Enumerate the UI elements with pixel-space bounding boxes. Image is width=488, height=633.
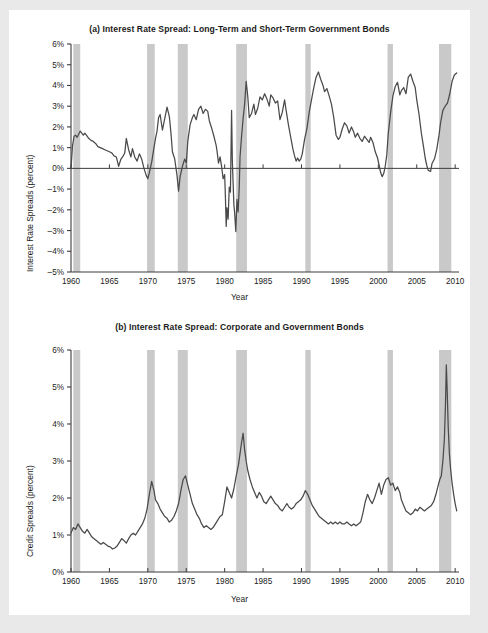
y-tick-label: 1% — [52, 531, 64, 540]
panel-a-svg: 6%5%4%3%2%1%0%–1%–2%–3%–4%–5%19601965197… — [9, 24, 470, 314]
y-tick-label: –5% — [48, 268, 64, 277]
recession-band — [236, 44, 247, 272]
recession-band — [236, 350, 247, 572]
x-tick-label: 1980 — [216, 577, 235, 586]
x-tick-label: 1975 — [177, 577, 196, 586]
x-tick-label: 1990 — [292, 277, 311, 286]
x-tick-label: 2000 — [369, 577, 388, 586]
y-tick-label: 3% — [52, 457, 64, 466]
x-tick-label: 2005 — [408, 277, 427, 286]
y-tick-label: 1% — [52, 144, 64, 153]
x-tick-label: 1970 — [139, 277, 158, 286]
x-tick-label: 1985 — [254, 577, 273, 586]
y-tick-label: –3% — [48, 227, 64, 236]
x-tick-label: 1990 — [292, 577, 311, 586]
x-tick-label: 1970 — [139, 577, 158, 586]
y-tick-label: 4% — [52, 81, 64, 90]
y-tick-label: 5% — [52, 383, 64, 392]
panel-a-plot-area: 6%5%4%3%2%1%0%–1%–2%–3%–4%–5%19601965197… — [9, 24, 470, 314]
x-tick-label: 1960 — [62, 277, 81, 286]
x-tick-label: 2000 — [369, 277, 388, 286]
recession-band — [305, 350, 310, 572]
data-series-line — [71, 365, 457, 549]
chart-panel-b: (b) Interest Rate Spread: Corporate and … — [9, 322, 470, 612]
data-series-line — [71, 72, 457, 232]
figure-page: (a) Interest Rate Spread: Long-Term and … — [9, 10, 470, 615]
x-tick-label: 1995 — [331, 277, 350, 286]
x-tick-label: 1965 — [100, 577, 119, 586]
y-tick-label: –4% — [48, 247, 64, 256]
y-tick-label: 5% — [52, 61, 64, 70]
y-tick-label: 2% — [52, 123, 64, 132]
y-tick-label: 0% — [52, 164, 64, 173]
y-tick-label: 6% — [52, 346, 64, 355]
x-tick-label: 1995 — [331, 577, 350, 586]
y-tick-label: 4% — [52, 420, 64, 429]
y-tick-label: 3% — [52, 102, 64, 111]
x-tick-label: 2010 — [446, 577, 465, 586]
recession-band — [388, 44, 393, 272]
recession-band — [73, 44, 80, 272]
x-tick-label: 1985 — [254, 277, 273, 286]
recession-band — [147, 44, 155, 272]
y-tick-label: 2% — [52, 494, 64, 503]
recession-band — [178, 350, 188, 572]
x-tick-label: 1980 — [216, 277, 235, 286]
y-tick-label: –1% — [48, 185, 64, 194]
x-tick-label: 2010 — [446, 277, 465, 286]
recession-band — [439, 44, 451, 272]
recession-band — [305, 44, 310, 272]
recession-band — [147, 350, 155, 572]
x-tick-label: 1975 — [177, 277, 196, 286]
chart-panel-a: (a) Interest Rate Spread: Long-Term and … — [9, 24, 470, 314]
y-tick-label: 6% — [52, 40, 64, 49]
x-tick-label: 1965 — [100, 277, 119, 286]
recession-band — [388, 350, 393, 572]
recession-band — [73, 350, 80, 572]
panel-b-plot-area: 6%5%4%3%2%1%0%19601965197019751980198519… — [9, 322, 470, 612]
x-tick-label: 2005 — [408, 577, 427, 586]
y-tick-label: 0% — [52, 568, 64, 577]
panel-b-svg: 6%5%4%3%2%1%0%19601965197019751980198519… — [9, 322, 470, 612]
y-tick-label: –2% — [48, 206, 64, 215]
x-tick-label: 1960 — [62, 577, 81, 586]
